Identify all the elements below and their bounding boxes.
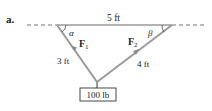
force-diagram: a. 5 ft α β F1 F2 3 ft 4 ft 100 lb <box>0 0 212 111</box>
alpha-arc <box>62 25 66 32</box>
weight-label: 100 lb <box>87 90 110 100</box>
right-length-label: 4 ft <box>137 59 150 69</box>
alpha-label: α <box>69 28 74 38</box>
beta-label: β <box>147 28 153 38</box>
f2-label: F2 <box>128 36 138 49</box>
left-length-label: 3 ft <box>57 56 70 66</box>
left-cable <box>57 25 97 82</box>
right-cable <box>97 25 172 82</box>
beta-arc <box>162 25 164 32</box>
span-label: 5 ft <box>107 13 120 23</box>
f1-label: F1 <box>79 38 89 51</box>
part-label: a. <box>6 13 15 25</box>
